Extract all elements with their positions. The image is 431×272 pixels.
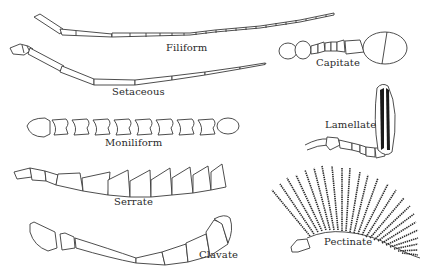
- serrate-antenna-drawing: [14, 164, 226, 197]
- antenna-types-diagram: Filiform Setaceous Capitate Moniliform L…: [0, 0, 431, 272]
- label-capitate: Capitate: [316, 57, 360, 68]
- label-setaceous: Setaceous: [112, 86, 165, 97]
- label-serrate: Serrate: [114, 196, 153, 207]
- label-filiform: Filiform: [166, 42, 207, 53]
- label-lamellate: Lamellate: [325, 119, 376, 130]
- setaceous-antenna-drawing: [10, 44, 266, 85]
- filiform-antenna-drawing: [34, 13, 334, 37]
- label-pectinate: Pectinate: [324, 236, 372, 247]
- label-moniliform: Moniliform: [105, 137, 162, 148]
- antenna-illustrations: [0, 0, 431, 272]
- moniliform-antenna-drawing: [27, 118, 239, 137]
- label-clavate: Clavate: [199, 249, 238, 260]
